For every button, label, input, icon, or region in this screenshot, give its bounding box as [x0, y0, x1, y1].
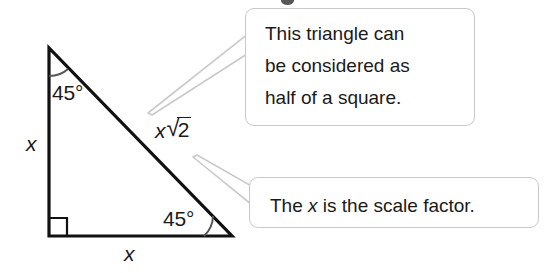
callout-scale-text-before: The: [270, 195, 308, 216]
angle-label-top: 45°: [52, 82, 83, 103]
angle-label-bottom-right: 45°: [163, 208, 194, 229]
callout-scale-text-after: is the scale factor.: [318, 195, 475, 216]
hypotenuse-label: x √ 2: [155, 117, 191, 141]
leg-label-horizontal: x: [124, 243, 135, 264]
callout-line-2: be considered as: [265, 50, 474, 82]
right-angle-marker: [49, 218, 67, 236]
callout-line-3: half of a square.: [265, 82, 474, 114]
angle-arc-top: [49, 69, 68, 76]
hypotenuse-variable: x: [155, 117, 166, 141]
callout-half-of-square: This triangle can be considered as half …: [245, 8, 475, 126]
callout-scale-variable: x: [308, 195, 318, 216]
callout-scale-text: The x is the scale factor.: [270, 190, 538, 222]
radicand-value: 2: [177, 117, 192, 141]
callout-scale-factor: The x is the scale factor.: [249, 177, 539, 228]
figure-canvas: 45° x x √ 2 45° x This triangle can be c…: [0, 0, 557, 273]
callout-tail-half-of-square: [148, 26, 258, 115]
angle-arc-bottom-right: [204, 216, 213, 236]
leg-label-vertical: x: [26, 133, 37, 154]
radical-group: √ 2: [167, 117, 192, 141]
callout-line-1: This triangle can: [265, 18, 474, 50]
